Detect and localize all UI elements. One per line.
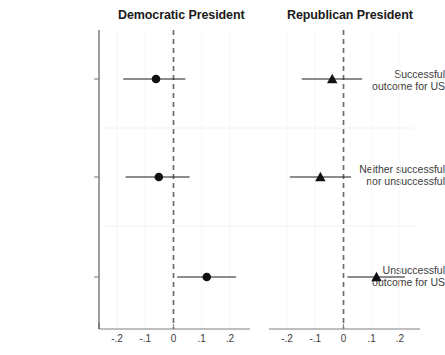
x-tick-label: .1: [368, 333, 376, 344]
estimate-marker-circle: [152, 75, 161, 84]
x-tick-label: 0: [341, 333, 347, 344]
x-tick-label: -.1: [139, 333, 151, 344]
x-tick-label: -.2: [111, 333, 123, 344]
estimate-marker-circle: [155, 173, 164, 182]
estimate-marker-circle: [202, 273, 211, 282]
x-tick-label: .2: [226, 333, 234, 344]
x-tick-label: 0: [171, 333, 177, 344]
axes: [94, 30, 420, 329]
forest-plot-figure: Democratic President Republican Presiden…: [0, 0, 445, 355]
x-tick-label: -.2: [281, 333, 293, 344]
x-tick-label: .1: [198, 333, 206, 344]
plot-canvas: [0, 0, 445, 355]
x-tick-label: .2: [396, 333, 404, 344]
gridlines: [103, 30, 414, 329]
x-tick-label: -.1: [309, 333, 321, 344]
data-series: [123, 74, 405, 282]
